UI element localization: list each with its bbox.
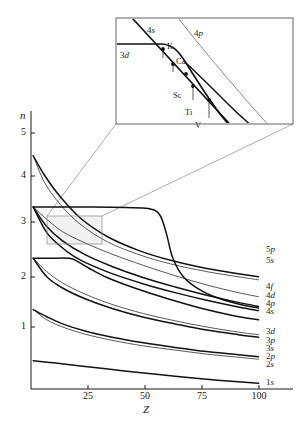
- x-tick-label-75: 75: [197, 391, 207, 401]
- inset-source-region: [47, 216, 102, 244]
- figure-canvas: nZ543212550751005p5s4f4d4p4s3d3p3s2p2s1s…: [0, 0, 298, 434]
- y-tick-label-1: 1: [21, 321, 26, 331]
- curve-1s: [33, 361, 258, 384]
- y-tick-label-2: 2: [21, 271, 26, 281]
- curve-3p: [33, 258, 258, 334]
- x-tick-label-100: 100: [252, 391, 267, 401]
- inset-marker-V: [207, 98, 211, 102]
- inset-element-label-Ca: Ca: [176, 57, 185, 66]
- curve-label-5p: 5p: [266, 245, 275, 254]
- x-tick-label-25: 25: [83, 391, 93, 401]
- inset-element-label-Ti: Ti: [185, 108, 192, 117]
- inset-marker-Sc-upper: [184, 72, 188, 76]
- inset-element-label-K: K: [167, 42, 173, 51]
- inset-element-label-V: V: [195, 121, 201, 130]
- curve-label-5s: 5s: [266, 256, 274, 265]
- inset-curve-label-4s: 4s: [147, 26, 155, 35]
- y-tick-label-3: 3: [21, 216, 26, 226]
- inset-curve-label-4p: 4p: [194, 29, 203, 38]
- curve-label-4s: 4s: [266, 307, 274, 316]
- curve-label-2s: 2s: [266, 360, 274, 369]
- y-axis-label: n: [20, 110, 26, 121]
- inset-curve-label-3d: 3d: [120, 51, 129, 60]
- inset-marker-Ti: [191, 84, 195, 88]
- x-axis-label: Z: [143, 404, 149, 415]
- x-tick-label-50: 50: [140, 391, 150, 401]
- energy-level-chart: [0, 0, 298, 434]
- inset-element-label-Sc: Sc: [173, 91, 182, 100]
- inset-marker-Ca: [171, 62, 175, 66]
- inset-connector-right: [102, 124, 293, 216]
- curve-3d: [33, 258, 258, 320]
- inset-marker-K: [161, 47, 165, 51]
- inset-frame: [116, 18, 293, 124]
- y-tick-label-5: 5: [21, 127, 26, 137]
- curve-label-1s: 1s: [266, 378, 274, 387]
- y-tick-label-4: 4: [21, 170, 26, 180]
- inset-connector-left: [47, 124, 116, 216]
